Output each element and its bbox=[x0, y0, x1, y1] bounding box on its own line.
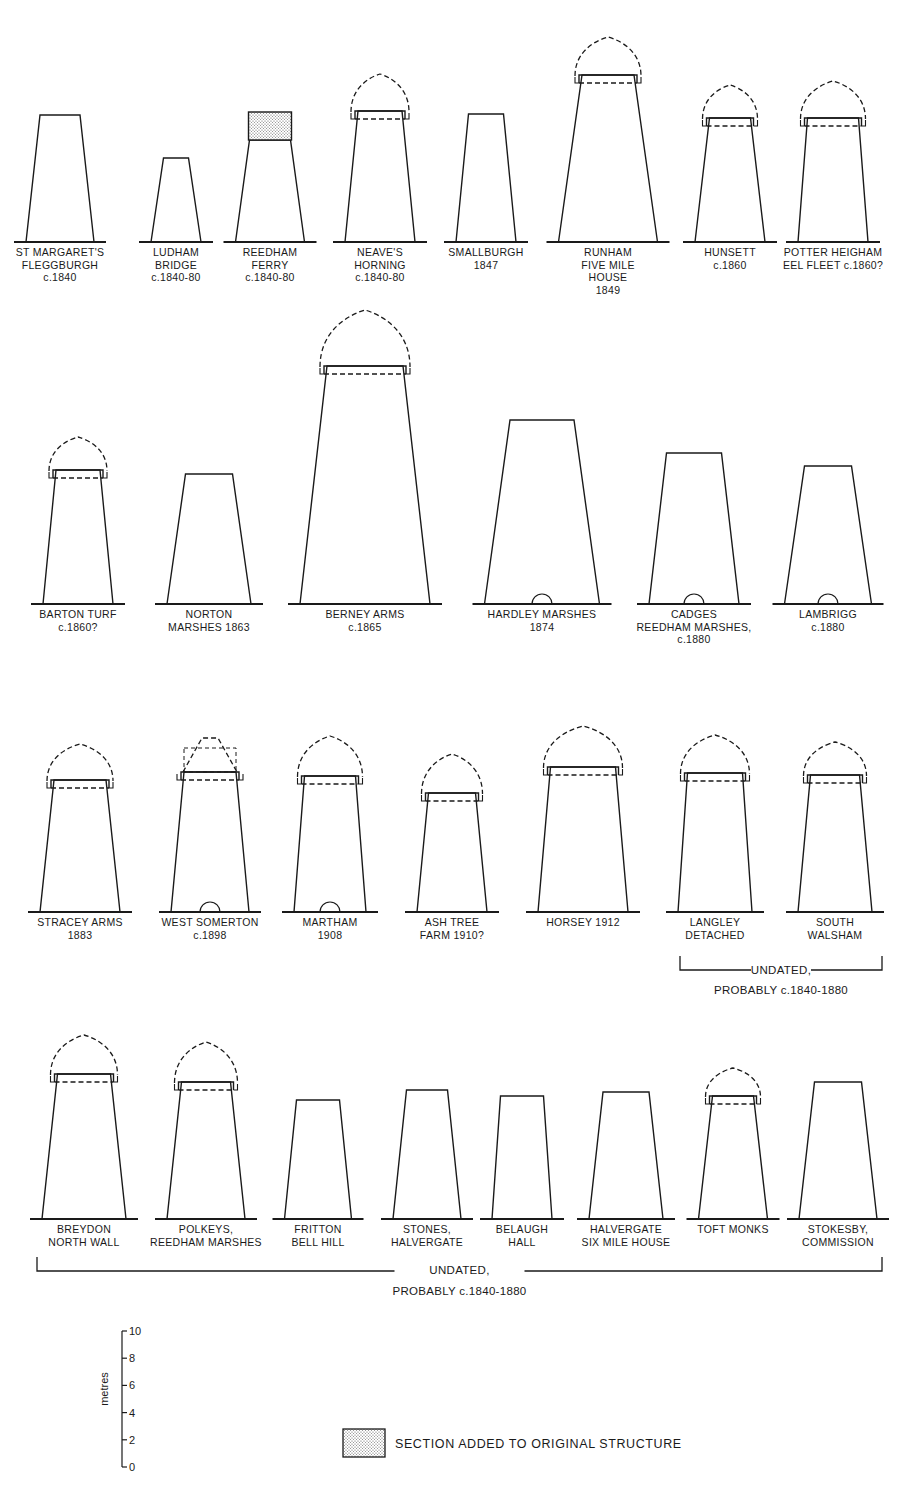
mill-label: SOUTHWALSHAM bbox=[808, 916, 863, 941]
mill-label-line: BARTON TURF bbox=[39, 608, 116, 620]
boat-cap-dashed bbox=[51, 1035, 118, 1075]
mill-label: SMALLBURGH1847 bbox=[448, 246, 523, 271]
mill-label-line: SOUTH bbox=[816, 916, 854, 928]
mill-west-somerton: WEST SOMERTONc.1898 bbox=[159, 738, 261, 941]
mill-label: WEST SOMERTONc.1898 bbox=[161, 916, 258, 941]
mill-label: STONES,HALVERGATE bbox=[391, 1223, 463, 1248]
mill-label-line: c.1880 bbox=[677, 633, 710, 645]
mill-label-line: FIVE MILE bbox=[581, 259, 634, 271]
mill-martham: MARTHAM1908 bbox=[282, 736, 378, 941]
mill-label-line: BELL HILL bbox=[291, 1236, 344, 1248]
curb bbox=[426, 793, 479, 801]
tower-outline bbox=[151, 158, 201, 242]
boat-cap-dashed bbox=[703, 85, 758, 119]
scale-tick-label: 2 bbox=[129, 1434, 135, 1446]
cap-outline-dashed bbox=[184, 748, 236, 772]
door-arch-icon bbox=[818, 594, 838, 604]
mill-cadges: CADGESREEDHAM MARSHES,c.1880 bbox=[636, 453, 751, 645]
mill-label-line: HORNING bbox=[354, 259, 406, 271]
mill-label-line: 1847 bbox=[474, 259, 499, 271]
tower-outline bbox=[167, 1082, 245, 1219]
mill-label-line: CADGES bbox=[671, 608, 717, 620]
mill-label-line: EEL FLEET c.1860? bbox=[783, 259, 883, 271]
tower-outline bbox=[40, 780, 120, 912]
mill-label-line: POLKEYS, bbox=[179, 1223, 233, 1235]
curb bbox=[53, 470, 103, 478]
mill-stokesby: STOKESBY,COMMISSION bbox=[787, 1082, 889, 1248]
mill-label-line: NORTH WALL bbox=[48, 1236, 119, 1248]
mill-label-line: WEST SOMERTON bbox=[161, 916, 258, 928]
mill-label: HORSEY 1912 bbox=[546, 916, 620, 928]
tower-outline bbox=[485, 420, 600, 604]
boat-cap-dashed bbox=[706, 1068, 761, 1097]
mill-barton-turf: BARTON TURFc.1860? bbox=[31, 437, 125, 633]
mill-label-line: c.1840 bbox=[43, 271, 76, 283]
boat-cap-dashed bbox=[804, 742, 867, 776]
mill-hunsett: HUNSETTc.1860 bbox=[683, 85, 777, 271]
mill-label-line: c.1880 bbox=[811, 621, 844, 633]
mill-label-line: HARDLEY MARSHES bbox=[488, 608, 597, 620]
mill-label: BERNEY ARMSc.1865 bbox=[326, 608, 405, 633]
tower-outline bbox=[171, 772, 249, 912]
mill-toft-monks: TOFT MONKS bbox=[687, 1068, 780, 1235]
mill-label-line: REEDHAM bbox=[243, 246, 298, 258]
mill-label: ST MARGARET'SFLEGGBURGHc.1840 bbox=[16, 246, 105, 283]
tower-outline bbox=[695, 118, 765, 242]
mill-label: REEDHAMFERRYc.1840-80 bbox=[243, 246, 298, 283]
curb bbox=[302, 776, 359, 784]
tower-outline bbox=[300, 366, 430, 604]
curb bbox=[355, 111, 405, 119]
mill-label-line: 1874 bbox=[530, 621, 555, 633]
curb bbox=[181, 772, 239, 780]
scale-tick-label: 0 bbox=[129, 1461, 135, 1473]
diagram-canvas: ST MARGARET'SFLEGGBURGHc.1840LUDHAMBRIDG… bbox=[0, 0, 922, 1504]
mill-label-line: HUNSETT bbox=[704, 246, 756, 258]
mill-label: HARDLEY MARSHES1874 bbox=[488, 608, 597, 633]
mill-label-line: FERRY bbox=[252, 259, 289, 271]
mill-label-line: NEAVE'S bbox=[357, 246, 403, 258]
tower-outline bbox=[538, 767, 628, 912]
mill-ash-tree-farm: ASH TREEFARM 1910? bbox=[405, 754, 499, 941]
mill-neaves: NEAVE'SHORNINGc.1840-80 bbox=[333, 74, 427, 283]
mill-label-line: LAMBRIGG bbox=[799, 608, 857, 620]
mill-label-line: FLEGGBURGH bbox=[22, 259, 99, 271]
boat-cap-dashed bbox=[175, 1042, 238, 1083]
legend-label: SECTION ADDED TO ORIGINAL STRUCTURE bbox=[395, 1437, 682, 1451]
mill-langley-detached: LANGLEYDETACHED bbox=[666, 735, 764, 941]
mills-layer: ST MARGARET'SFLEGGBURGHc.1840LUDHAMBRIDG… bbox=[14, 37, 889, 1248]
mill-label: FRITTONBELL HILL bbox=[291, 1223, 344, 1248]
boat-cap-dashed bbox=[681, 735, 750, 774]
mill-norton-marshes: NORTONMARSHES 1863 bbox=[155, 474, 263, 633]
bracket-right bbox=[525, 1257, 883, 1271]
mill-breydon: BREYDONNORTH WALL bbox=[30, 1035, 138, 1248]
mill-lambrigg: LAMBRIGGc.1880 bbox=[773, 466, 884, 633]
boat-cap-dashed bbox=[544, 726, 623, 768]
curb bbox=[710, 1096, 757, 1104]
mill-label-line: SIX MILE HOUSE bbox=[582, 1236, 671, 1248]
mill-elevations-diagram: ST MARGARET'SFLEGGBURGHc.1840LUDHAMBRIDG… bbox=[0, 0, 922, 1504]
bracket-label-line2: PROBABLY c.1840-1880 bbox=[392, 1285, 526, 1297]
mill-label-line: FARM 1910? bbox=[420, 929, 484, 941]
door-arch-icon bbox=[532, 594, 552, 604]
mill-label-line: REEDHAM MARSHES, bbox=[636, 621, 751, 633]
legend: SECTION ADDED TO ORIGINAL STRUCTURE bbox=[343, 1429, 682, 1457]
mill-fritton: FRITTONBELL HILL bbox=[273, 1100, 364, 1248]
scale-unit-label: metres bbox=[98, 1372, 110, 1406]
mill-label-line: BELAUGH bbox=[496, 1223, 548, 1235]
mill-label-line: POTTER HEIGHAM bbox=[784, 246, 883, 258]
bracket-label-line1: UNDATED, bbox=[751, 964, 811, 976]
mill-hardley-marshes: HARDLEY MARSHES1874 bbox=[473, 420, 612, 633]
mill-label-line: MARTHAM bbox=[303, 916, 358, 928]
curb bbox=[685, 773, 746, 781]
scale-bar: 1086420 metres bbox=[98, 1325, 141, 1473]
mill-label-line: HALVERGATE bbox=[590, 1223, 662, 1235]
curb bbox=[548, 767, 619, 775]
mill-label: HUNSETTc.1860 bbox=[704, 246, 756, 271]
mill-halvergate-six-mile: HALVERGATESIX MILE HOUSE bbox=[577, 1092, 675, 1248]
door-arch-icon bbox=[200, 902, 220, 912]
mill-ludham-bridge: LUDHAMBRIDGEc.1840-80 bbox=[139, 158, 213, 283]
stipple-swatch-icon bbox=[343, 1429, 385, 1457]
curb bbox=[808, 775, 863, 783]
scale-tick-label: 6 bbox=[129, 1379, 135, 1391]
mill-smallburgh: SMALLBURGH1847 bbox=[444, 114, 528, 271]
